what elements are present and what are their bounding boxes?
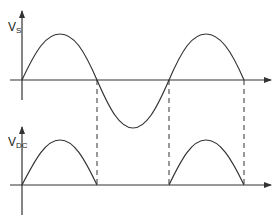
vdc-half-wave-2 (169, 140, 244, 185)
rectifier-waveform-diagram: VS VDC (0, 0, 280, 219)
bottom-plot: VDC (8, 127, 271, 215)
top-plot: VS (8, 11, 271, 128)
vs-sine-wave (22, 34, 244, 128)
diagram-canvas: VS VDC (0, 0, 280, 219)
zero-crossing-guides (97, 80, 244, 185)
vdc-half-wave-1 (22, 140, 97, 185)
bottom-y-label: VDC (8, 135, 28, 150)
top-y-label: VS (8, 20, 21, 35)
